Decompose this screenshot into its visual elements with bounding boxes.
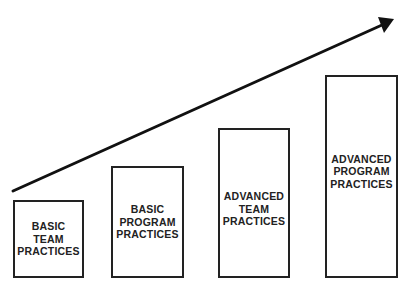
stage-advanced-team-practices: ADVANCED TEAM PRACTICES: [218, 128, 290, 278]
stage-basic-team-practices: BASIC TEAM PRACTICES: [13, 200, 84, 278]
stage-basic-program-practices: BASIC PROGRAM PRACTICES: [111, 166, 184, 278]
stage-label: ADVANCED TEAM PRACTICES: [223, 190, 285, 228]
stage-label: ADVANCED PROGRAM PRACTICES: [330, 153, 392, 191]
stage-advanced-program-practices: ADVANCED PROGRAM PRACTICES: [325, 75, 398, 278]
stage-label: BASIC PROGRAM PRACTICES: [116, 203, 178, 241]
stage-label: BASIC TEAM PRACTICES: [17, 220, 79, 258]
